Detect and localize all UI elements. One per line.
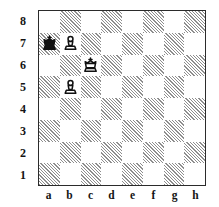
board-square-f1[interactable] <box>143 163 164 185</box>
rank-label-column: 8 7 6 5 4 3 2 1 <box>12 10 34 186</box>
board-square-g8[interactable] <box>164 11 185 33</box>
board-square-f5[interactable] <box>143 76 164 98</box>
board-square-f3[interactable] <box>143 120 164 142</box>
board-square-c5[interactable] <box>81 76 102 98</box>
board-square-e6[interactable] <box>122 55 143 77</box>
board-square-a5[interactable] <box>39 76 60 98</box>
board-square-e4[interactable] <box>122 98 143 120</box>
board-square-c3[interactable] <box>81 120 102 142</box>
board-square-c7[interactable] <box>81 33 102 55</box>
board-square-a8[interactable] <box>39 11 60 33</box>
board-square-e5[interactable] <box>122 76 143 98</box>
board-square-h2[interactable] <box>184 142 205 164</box>
board-square-h4[interactable] <box>184 98 205 120</box>
board-square-e8[interactable] <box>122 11 143 33</box>
board-square-g1[interactable] <box>164 163 185 185</box>
rank-label-5: 5 <box>12 76 34 98</box>
chess-diagram: 8 7 6 5 4 3 2 1 a b c d e f g h <box>0 0 219 207</box>
file-label-b: b <box>59 188 80 204</box>
board-square-d2[interactable] <box>101 142 122 164</box>
board-square-h5[interactable] <box>184 76 205 98</box>
board-square-c1[interactable] <box>81 163 102 185</box>
rank-label-8: 8 <box>12 10 34 32</box>
board-square-b5[interactable] <box>60 76 81 98</box>
board-square-h1[interactable] <box>184 163 205 185</box>
rank-label-4: 4 <box>12 98 34 120</box>
file-label-g: g <box>164 188 185 204</box>
board-square-d1[interactable] <box>101 163 122 185</box>
file-label-a: a <box>38 188 59 204</box>
white-king-icon <box>81 55 102 77</box>
rank-label-7: 7 <box>12 32 34 54</box>
chess-board-grid <box>39 11 205 185</box>
board-square-a1[interactable] <box>39 163 60 185</box>
board-square-g5[interactable] <box>164 76 185 98</box>
rank-label-1: 1 <box>12 164 34 186</box>
board-square-a4[interactable] <box>39 98 60 120</box>
file-label-e: e <box>122 188 143 204</box>
board-square-h3[interactable] <box>184 120 205 142</box>
rank-label-2: 2 <box>12 142 34 164</box>
board-square-f2[interactable] <box>143 142 164 164</box>
board-square-c2[interactable] <box>81 142 102 164</box>
board-square-b3[interactable] <box>60 120 81 142</box>
board-square-e3[interactable] <box>122 120 143 142</box>
board-square-g3[interactable] <box>164 120 185 142</box>
board-square-b1[interactable] <box>60 163 81 185</box>
board-square-g7[interactable] <box>164 33 185 55</box>
board-square-d4[interactable] <box>101 98 122 120</box>
file-label-f: f <box>143 188 164 204</box>
board-square-a7[interactable] <box>39 33 60 55</box>
rank-label-3: 3 <box>12 120 34 142</box>
board-square-b6[interactable] <box>60 55 81 77</box>
file-label-h: h <box>185 188 206 204</box>
board-square-d6[interactable] <box>101 55 122 77</box>
board-square-f8[interactable] <box>143 11 164 33</box>
black-king-icon <box>39 33 60 55</box>
board-square-c6[interactable] <box>81 55 102 77</box>
board-square-h6[interactable] <box>184 55 205 77</box>
board-square-c8[interactable] <box>81 11 102 33</box>
board-square-c4[interactable] <box>81 98 102 120</box>
board-square-f4[interactable] <box>143 98 164 120</box>
board-square-d8[interactable] <box>101 11 122 33</box>
board-square-a3[interactable] <box>39 120 60 142</box>
chess-board[interactable] <box>38 10 206 186</box>
board-square-d7[interactable] <box>101 33 122 55</box>
board-square-e7[interactable] <box>122 33 143 55</box>
file-label-row: a b c d e f g h <box>38 188 206 204</box>
file-label-d: d <box>101 188 122 204</box>
board-square-h7[interactable] <box>184 33 205 55</box>
board-square-d3[interactable] <box>101 120 122 142</box>
board-square-f6[interactable] <box>143 55 164 77</box>
board-square-e2[interactable] <box>122 142 143 164</box>
rank-label-6: 6 <box>12 54 34 76</box>
board-square-b7[interactable] <box>60 33 81 55</box>
board-square-f7[interactable] <box>143 33 164 55</box>
board-square-b2[interactable] <box>60 142 81 164</box>
board-square-a6[interactable] <box>39 55 60 77</box>
white-pawn-icon <box>60 76 81 98</box>
board-square-a2[interactable] <box>39 142 60 164</box>
board-square-b8[interactable] <box>60 11 81 33</box>
board-square-h8[interactable] <box>184 11 205 33</box>
board-square-d5[interactable] <box>101 76 122 98</box>
board-square-e1[interactable] <box>122 163 143 185</box>
board-square-g6[interactable] <box>164 55 185 77</box>
board-square-b4[interactable] <box>60 98 81 120</box>
white-pawn-icon <box>60 33 81 55</box>
board-square-g4[interactable] <box>164 98 185 120</box>
file-label-c: c <box>80 188 101 204</box>
board-square-g2[interactable] <box>164 142 185 164</box>
